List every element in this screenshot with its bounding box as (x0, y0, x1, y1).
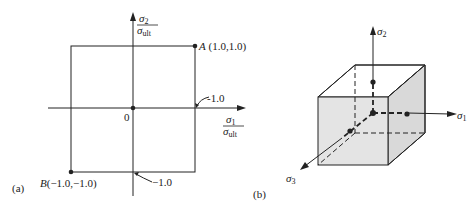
point-b (69, 170, 74, 175)
point-a-label: A (1.0,1.0) (198, 40, 246, 53)
point-a (193, 44, 198, 49)
sigma3-arrow-icon (300, 162, 309, 170)
sigma1-label: σ1 (457, 109, 466, 123)
y-axis-arrow-icon (130, 12, 136, 21)
figure-canvas: σ2 σult σ1 σult 0 A (1.0,1.0) B(−1.0,−1.… (0, 0, 471, 214)
panel-a-label: (a) (12, 182, 25, 195)
sigma2-arrow-icon (370, 26, 376, 35)
x-axis-label-denominator: σult (223, 125, 238, 139)
panel-b-label: (b) (253, 188, 266, 201)
sigma2-point (370, 79, 375, 84)
x-axis-arrow-icon (237, 105, 246, 111)
sigma1-point (404, 111, 409, 116)
origin-point (131, 106, 136, 111)
origin-label: 0 (124, 111, 130, 123)
sigma3-label: σ3 (286, 172, 295, 186)
sigma3-point (347, 128, 352, 133)
point-b-label: B(−1.0,−1.0) (40, 177, 97, 190)
y-tick-label: −1.0 (152, 176, 172, 188)
panel-a-labels: σ2 σult σ1 σult 0 A (1.0,1.0) B(−1.0,−1.… (12, 12, 246, 195)
panel-b (300, 26, 457, 170)
sigma2-label: σ2 (377, 25, 386, 39)
x-tick-label: -1.0 (207, 92, 225, 104)
y-axis-label-denominator: σult (137, 24, 152, 38)
leader-line-y-tick (136, 174, 152, 182)
sigma1-arrow-icon (447, 111, 457, 117)
cube-front-face (318, 97, 388, 165)
cube-center-point (370, 110, 376, 116)
